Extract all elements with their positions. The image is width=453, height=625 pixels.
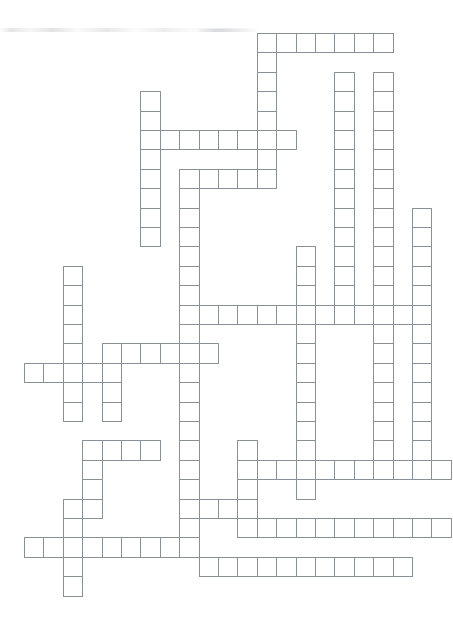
crossword-cell[interactable]: [257, 460, 277, 480]
crossword-cell[interactable]: [373, 363, 393, 383]
crossword-cell[interactable]: [412, 382, 432, 402]
crossword-cell[interactable]: [412, 440, 432, 460]
crossword-cell[interactable]: [373, 227, 393, 247]
crossword-cell[interactable]: [296, 33, 316, 53]
crossword-cell[interactable]: [140, 111, 160, 131]
crossword-cell[interactable]: [237, 479, 257, 499]
crossword-cell[interactable]: [160, 537, 180, 557]
crossword-cell[interactable]: [179, 537, 199, 557]
crossword-cell[interactable]: [393, 460, 413, 480]
crossword-cell[interactable]: [82, 499, 102, 519]
crossword-cell[interactable]: [179, 246, 199, 266]
crossword-cell[interactable]: [315, 305, 335, 325]
crossword-cell[interactable]: [237, 440, 257, 460]
crossword-cell[interactable]: [179, 382, 199, 402]
crossword-cell[interactable]: [63, 266, 83, 286]
crossword-cell[interactable]: [199, 305, 219, 325]
crossword-cell[interactable]: [140, 130, 160, 150]
crossword-cell[interactable]: [373, 382, 393, 402]
crossword-cell[interactable]: [373, 33, 393, 53]
crossword-cell[interactable]: [315, 518, 335, 538]
crossword-cell[interactable]: [412, 246, 432, 266]
crossword-cell[interactable]: [296, 460, 316, 480]
crossword-cell[interactable]: [315, 33, 335, 53]
crossword-cell[interactable]: [257, 130, 277, 150]
crossword-cell[interactable]: [140, 440, 160, 460]
crossword-cell[interactable]: [63, 518, 83, 538]
crossword-cell[interactable]: [431, 460, 451, 480]
crossword-cell[interactable]: [373, 421, 393, 441]
crossword-cell[interactable]: [179, 208, 199, 228]
crossword-cell[interactable]: [257, 52, 277, 72]
crossword-cell[interactable]: [140, 208, 160, 228]
crossword-cell[interactable]: [296, 266, 316, 286]
crossword-cell[interactable]: [296, 421, 316, 441]
crossword-cell[interactable]: [199, 169, 219, 189]
crossword-cell[interactable]: [354, 460, 374, 480]
crossword-cell[interactable]: [82, 537, 102, 557]
crossword-cell[interactable]: [63, 499, 83, 519]
crossword-cell[interactable]: [334, 518, 354, 538]
crossword-cell[interactable]: [257, 305, 277, 325]
crossword-cell[interactable]: [276, 518, 296, 538]
crossword-cell[interactable]: [296, 246, 316, 266]
crossword-cell[interactable]: [140, 169, 160, 189]
crossword-cell[interactable]: [373, 285, 393, 305]
crossword-cell[interactable]: [24, 363, 44, 383]
crossword-cell[interactable]: [412, 343, 432, 363]
crossword-cell[interactable]: [393, 305, 413, 325]
crossword-cell[interactable]: [121, 440, 141, 460]
crossword-cell[interactable]: [334, 557, 354, 577]
crossword-cell[interactable]: [140, 91, 160, 111]
crossword-cell[interactable]: [140, 343, 160, 363]
crossword-cell[interactable]: [296, 324, 316, 344]
crossword-cell[interactable]: [334, 33, 354, 53]
crossword-cell[interactable]: [334, 208, 354, 228]
crossword-cell[interactable]: [179, 285, 199, 305]
crossword-cell[interactable]: [179, 421, 199, 441]
crossword-cell[interactable]: [431, 518, 451, 538]
crossword-cell[interactable]: [179, 479, 199, 499]
crossword-cell[interactable]: [334, 266, 354, 286]
crossword-cell[interactable]: [43, 537, 63, 557]
crossword-cell[interactable]: [373, 91, 393, 111]
crossword-cell[interactable]: [315, 557, 335, 577]
crossword-cell[interactable]: [412, 402, 432, 422]
crossword-cell[interactable]: [296, 382, 316, 402]
crossword-cell[interactable]: [102, 382, 122, 402]
crossword-cell[interactable]: [257, 557, 277, 577]
crossword-cell[interactable]: [179, 363, 199, 383]
crossword-cell[interactable]: [276, 130, 296, 150]
crossword-cell[interactable]: [373, 130, 393, 150]
crossword-cell[interactable]: [412, 421, 432, 441]
crossword-cell[interactable]: [257, 149, 277, 169]
crossword-cell[interactable]: [82, 460, 102, 480]
crossword-cell[interactable]: [63, 576, 83, 596]
crossword-cell[interactable]: [24, 537, 44, 557]
crossword-cell[interactable]: [102, 402, 122, 422]
crossword-cell[interactable]: [334, 111, 354, 131]
crossword-cell[interactable]: [276, 460, 296, 480]
crossword-cell[interactable]: [373, 72, 393, 92]
crossword-cell[interactable]: [63, 305, 83, 325]
crossword-cell[interactable]: [296, 440, 316, 460]
crossword-cell[interactable]: [237, 518, 257, 538]
crossword-cell[interactable]: [334, 130, 354, 150]
crossword-cell[interactable]: [237, 557, 257, 577]
crossword-cell[interactable]: [334, 91, 354, 111]
crossword-cell[interactable]: [218, 130, 238, 150]
crossword-cell[interactable]: [334, 246, 354, 266]
crossword-cell[interactable]: [199, 343, 219, 363]
crossword-cell[interactable]: [296, 363, 316, 383]
crossword-cell[interactable]: [218, 169, 238, 189]
crossword-cell[interactable]: [179, 130, 199, 150]
crossword-cell[interactable]: [179, 266, 199, 286]
crossword-cell[interactable]: [257, 518, 277, 538]
crossword-cell[interactable]: [276, 33, 296, 53]
crossword-cell[interactable]: [373, 460, 393, 480]
crossword-cell[interactable]: [315, 460, 335, 480]
crossword-cell[interactable]: [102, 440, 122, 460]
crossword-cell[interactable]: [373, 557, 393, 577]
crossword-cell[interactable]: [102, 343, 122, 363]
crossword-cell[interactable]: [373, 111, 393, 131]
